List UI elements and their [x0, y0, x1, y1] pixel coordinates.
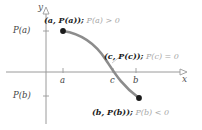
x-tick-label-a: a — [60, 76, 65, 85]
point-marker-b — [136, 95, 142, 101]
y-tick-label-pb: P(b) — [13, 91, 31, 100]
point-b-condition: P(b) < 0 — [135, 108, 169, 117]
point-a-coordinate: (a, P(a)); — [44, 15, 84, 25]
point-a-condition: P(a) > 0 — [87, 16, 120, 25]
point-c-annotation: (c, P(c)); P(c) = 0 — [104, 52, 179, 61]
x-tick-label-c: c — [110, 76, 115, 85]
point-b-coordinate: (b, P(b)); — [92, 107, 133, 117]
point-c-condition: P(c) = 0 — [146, 52, 179, 61]
y-axis-label: y — [38, 3, 43, 12]
x-axis-label: x — [182, 75, 187, 84]
point-b-annotation: (b, P(b)); P(b) < 0 — [92, 108, 169, 117]
x-tick-label-b: b — [133, 76, 138, 85]
point-a-annotation: (a, P(a)); P(a) > 0 — [44, 16, 120, 25]
y-tick-label-pa: P(a) — [13, 26, 30, 35]
figure-canvas: y x a c b P(a) P(b) (a, P(a)); P(a) > 0 … — [0, 0, 202, 130]
point-marker-a — [60, 28, 66, 34]
function-curve — [63, 31, 139, 98]
point-c-coordinate: (c, P(c)); — [104, 51, 143, 61]
y-axis-arrow-icon — [43, 7, 49, 14]
